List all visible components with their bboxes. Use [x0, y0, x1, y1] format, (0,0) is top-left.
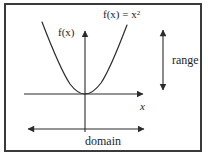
range-label: range	[172, 53, 199, 67]
domain-label: domain	[85, 134, 121, 148]
y-axis-label: f(x)	[58, 26, 75, 39]
domain-range-diagram: f(x) = x2 f(x) x range domain	[0, 0, 217, 161]
function-equation-label: f(x) = x2	[103, 8, 141, 21]
x-axis-label: x	[139, 100, 145, 112]
figure-container: f(x) = x2 f(x) x range domain	[0, 0, 217, 161]
